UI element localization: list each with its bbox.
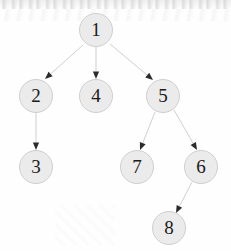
graph-edge-1-to-4: [93, 47, 99, 79]
scan-noise-artifact-secondary: [0, 9, 231, 21]
edge-arrowhead: [33, 143, 39, 151]
edge-line: [110, 44, 147, 75]
graph-edge-1-to-5: [110, 44, 153, 80]
graph-node-8[interactable]: 8: [152, 211, 186, 245]
graph-node-2[interactable]: 2: [19, 79, 53, 113]
graph-node-5[interactable]: 5: [146, 79, 180, 113]
edge-arrowhead: [93, 72, 99, 80]
edge-line: [179, 182, 192, 206]
graph-edge-1-to-2: [45, 45, 83, 79]
graph-edge-6-to-8: [176, 182, 192, 213]
graph-node-label: 3: [31, 157, 41, 176]
graph-node-label: 8: [164, 218, 174, 237]
scan-noise-artifact-top: [0, 0, 231, 9]
edge-line: [143, 112, 155, 143]
graph-node-label: 6: [196, 157, 206, 176]
graph-node-4[interactable]: 4: [79, 79, 113, 113]
edge-line: [51, 45, 83, 74]
graph-node-6[interactable]: 6: [184, 150, 218, 184]
graph-node-3[interactable]: 3: [19, 150, 53, 184]
graph-edge-5-to-6: [174, 110, 197, 150]
edge-line: [174, 110, 193, 143]
graph-edge-layer: [0, 0, 231, 251]
graph-node-label: 2: [31, 86, 41, 105]
graph-node-label: 5: [158, 86, 168, 105]
edge-arrowhead: [191, 142, 197, 150]
scan-noise-artifact-lower: [55, 205, 115, 245]
graph-edge-5-to-7: [140, 112, 155, 150]
graph-node-7[interactable]: 7: [120, 150, 154, 184]
edge-arrowhead: [140, 142, 146, 150]
edge-arrowhead: [145, 73, 153, 80]
graph-node-label: 7: [132, 157, 142, 176]
graph-node-1[interactable]: 1: [79, 13, 113, 47]
diagram-canvas: 12453768: [0, 0, 231, 251]
graph-node-label: 4: [91, 86, 101, 105]
graph-node-label: 1: [91, 20, 101, 39]
graph-edge-2-to-3: [33, 113, 39, 150]
